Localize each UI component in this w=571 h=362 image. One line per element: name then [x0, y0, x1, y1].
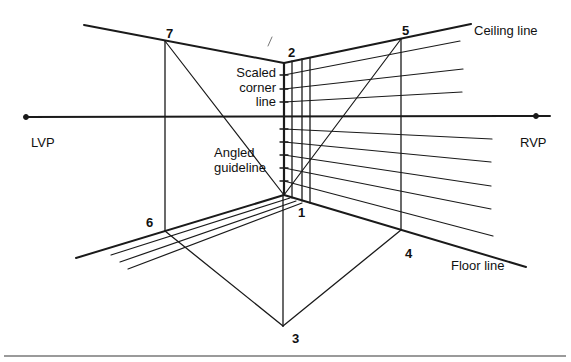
ceiling-line-label: Ceiling line — [474, 24, 538, 38]
point-label-4: 4 — [405, 247, 412, 261]
angled-guideline-label-2: guideline — [214, 161, 266, 175]
point-label-6: 6 — [146, 216, 153, 230]
point-label-3: 3 — [292, 332, 299, 346]
scaled-corner-line-label-1: Scaled — [222, 66, 276, 80]
perspective-diagram: LVP RVP Ceiling line Floor line Scaled c… — [0, 0, 571, 362]
point-label-5: 5 — [402, 24, 409, 38]
perspective-drawing — [0, 0, 571, 362]
point-label-2: 2 — [288, 46, 295, 60]
lvp-point — [24, 115, 29, 120]
scaled-corner-line-label-3: line — [222, 95, 276, 109]
left-floor-line — [76, 195, 284, 258]
floor-line-label: Floor line — [451, 259, 504, 273]
point-label-1: 1 — [298, 206, 305, 220]
horizon-line — [26, 116, 550, 117]
rvp-label: RVP — [520, 136, 547, 150]
left-ceiling-line — [84, 25, 284, 63]
point-label-7: 7 — [166, 27, 173, 41]
angled-guideline-label: Angled guideline — [214, 146, 266, 174]
scaled-corner-line-label-2: corner — [222, 81, 276, 95]
rvp-point — [534, 114, 539, 119]
lvp-label: LVP — [31, 136, 55, 150]
diagonal-6-3 — [165, 231, 283, 326]
angled-guideline-label-1: Angled — [214, 146, 266, 160]
scaled-corner-line-label: Scaled corner line — [222, 66, 276, 109]
diagonal-4-3 — [283, 230, 401, 326]
